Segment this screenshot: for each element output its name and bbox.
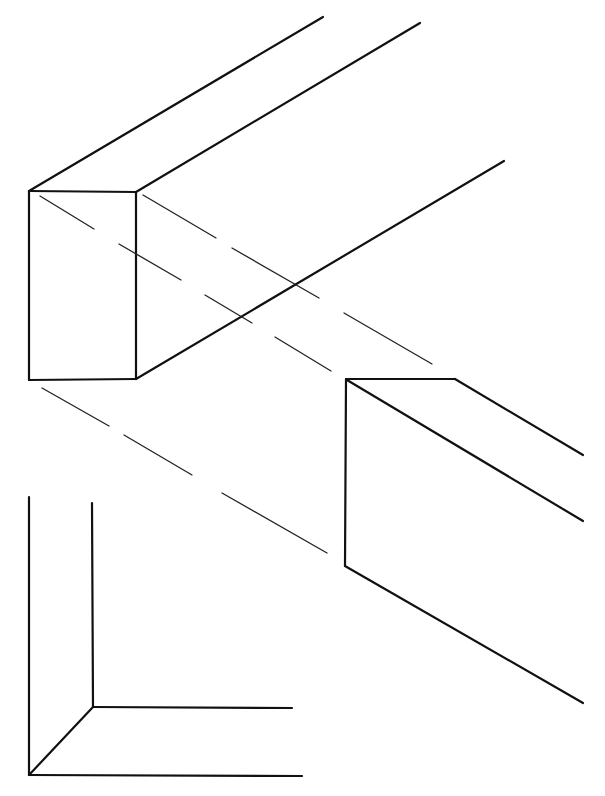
hidden-dashed-segment xyxy=(205,295,252,323)
hidden-dashed-segment xyxy=(143,195,216,238)
upper-beam-edge xyxy=(136,161,504,379)
hidden-dashed-segment xyxy=(344,313,432,364)
corner-axis-line xyxy=(29,707,93,775)
hidden-dashed-segment xyxy=(119,244,181,280)
upper-beam xyxy=(29,17,504,380)
corner-axis-line xyxy=(93,707,292,708)
hidden-dashed-segment xyxy=(275,337,331,371)
corner-axis-line xyxy=(92,503,93,707)
beam-joint-diagram xyxy=(0,0,605,796)
upper-beam-edge xyxy=(136,23,420,192)
lower-beam-edge xyxy=(345,379,346,566)
lower-beam-edge xyxy=(347,380,583,521)
hidden-dashed-segment xyxy=(40,196,94,229)
upper-beam-edge xyxy=(29,379,136,380)
lower-beam-edge xyxy=(455,379,583,455)
hidden-dashed-segment xyxy=(232,248,319,298)
hidden-dashed-segment xyxy=(124,435,192,475)
lower-beam xyxy=(345,379,583,703)
corner-axes xyxy=(29,497,302,776)
hidden-dashed-segment xyxy=(42,388,109,426)
hidden-projection-lines xyxy=(40,195,432,553)
hidden-dashed-segment xyxy=(222,493,327,553)
lower-beam-edge xyxy=(345,566,583,703)
upper-beam-edge xyxy=(29,191,136,192)
corner-axis-line xyxy=(29,775,302,776)
upper-beam-edge xyxy=(29,17,323,191)
